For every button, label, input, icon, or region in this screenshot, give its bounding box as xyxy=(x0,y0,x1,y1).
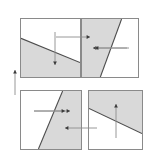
figure-root: Four shaded half-plane regions with dire… xyxy=(0,0,155,157)
panel-bottom-left-graphic xyxy=(21,91,81,149)
panel-top-right xyxy=(81,18,139,78)
panel-top-right-graphic xyxy=(82,19,138,77)
arrow-head xyxy=(13,70,17,73)
up-pointing-margin-arrow xyxy=(13,70,17,95)
panel-bottom-left xyxy=(20,90,82,150)
shaded-region-right xyxy=(38,91,81,149)
shaded-region-below xyxy=(21,38,80,77)
figure-title: Four shaded half-plane regions with dire… xyxy=(0,0,1,1)
panel-top-left-graphic xyxy=(21,19,80,77)
panel-bottom-right xyxy=(88,90,143,150)
shaded-region-left xyxy=(82,19,122,77)
panel-bottom-right-graphic xyxy=(89,91,142,149)
panel-top-left xyxy=(20,18,81,78)
